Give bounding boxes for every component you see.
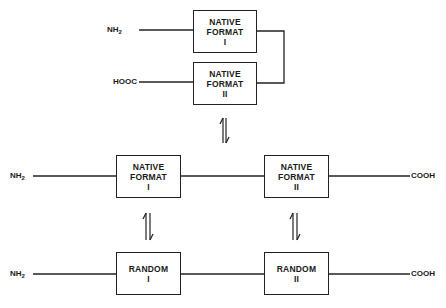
box-text: FORMAT bbox=[207, 79, 244, 89]
box-text: II bbox=[294, 182, 299, 192]
bottom-random-2-box: RANDOM II bbox=[264, 252, 329, 295]
nh-text: NH bbox=[10, 269, 22, 278]
box-text: NATIVE bbox=[209, 69, 241, 79]
box-text: FORMAT bbox=[130, 172, 167, 182]
subscript-2: 2 bbox=[22, 273, 25, 279]
top-hooc-label: HOOC bbox=[113, 77, 137, 87]
box-text: I bbox=[147, 274, 150, 284]
equilibrium-arrow-right bbox=[290, 213, 300, 240]
box-text: I bbox=[224, 37, 227, 47]
top-nh2-label: NH2 bbox=[107, 25, 122, 35]
box-text: RANDOM bbox=[129, 264, 168, 274]
bottom-nh2-label: NH2 bbox=[10, 269, 25, 279]
top-native-format-1-box: NATIVE FORMAT I bbox=[193, 10, 257, 53]
equilibrium-arrow-top bbox=[220, 118, 229, 143]
nh-text: NH bbox=[107, 25, 119, 34]
box-text: II bbox=[294, 274, 299, 284]
subscript-2: 2 bbox=[22, 175, 25, 181]
box-text: FORMAT bbox=[278, 172, 315, 182]
bottom-cooh-label: COOH bbox=[411, 269, 435, 279]
top-native-format-2-box: NATIVE FORMAT II bbox=[193, 62, 257, 105]
box-text: NATIVE bbox=[209, 17, 241, 27]
bottom-random-1-box: RANDOM I bbox=[116, 252, 181, 295]
middle-native-format-2-box: NATIVE FORMAT II bbox=[264, 155, 329, 198]
middle-native-format-1-box: NATIVE FORMAT I bbox=[116, 155, 181, 198]
subscript-2: 2 bbox=[119, 29, 122, 35]
box-text: II bbox=[222, 89, 227, 99]
box-text: FORMAT bbox=[207, 27, 244, 37]
equilibrium-arrow-left bbox=[143, 213, 153, 240]
box-text: RANDOM bbox=[277, 264, 316, 274]
nh-text: NH bbox=[10, 171, 22, 180]
box-text: NATIVE bbox=[133, 162, 165, 172]
middle-cooh-label: COOH bbox=[411, 171, 435, 181]
box-text: NATIVE bbox=[281, 162, 313, 172]
box-text: I bbox=[147, 182, 150, 192]
middle-nh2-label: NH2 bbox=[10, 171, 25, 181]
